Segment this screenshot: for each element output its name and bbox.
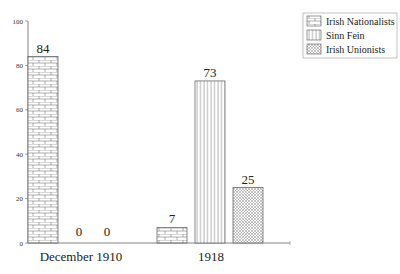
legend: Irish Nationalists Sinn Fein Irish Union… xyxy=(303,13,397,58)
y-tick-label: 100 xyxy=(13,18,24,26)
bar-sinn-fein-1 xyxy=(195,81,225,243)
bar-irish-nationalists-1 xyxy=(157,227,187,243)
category-label-1918: 1918 xyxy=(198,249,224,264)
legend-swatch-irish-unionists xyxy=(307,44,321,54)
legend-swatch-irish-nationalists xyxy=(307,16,321,26)
legend-label-sinn-fein: Sinn Fein xyxy=(326,30,365,41)
value-label: 84 xyxy=(37,41,51,56)
value-label: 0 xyxy=(104,224,111,239)
legend-label-irish-nationalists: Irish Nationalists xyxy=(326,16,395,27)
bar-chart: 020406080100 840077325 December 1910 191… xyxy=(0,0,400,274)
y-tick-label: 40 xyxy=(16,151,24,159)
legend-label-irish-unionists: Irish Unionists xyxy=(326,44,385,55)
bar-irish-nationalists-0 xyxy=(28,57,58,243)
value-label: 25 xyxy=(242,172,255,187)
y-axis: 020406080100 xyxy=(13,18,29,248)
y-tick-label: 20 xyxy=(16,195,24,203)
y-tick-label: 0 xyxy=(20,240,24,248)
bars-group: 840077325 xyxy=(28,41,263,243)
category-label-1910: December 1910 xyxy=(40,249,123,264)
y-tick-label: 60 xyxy=(16,106,24,114)
legend-swatch-sinn-fein xyxy=(307,30,321,40)
value-label: 0 xyxy=(76,224,83,239)
value-label: 73 xyxy=(204,65,217,80)
value-label: 7 xyxy=(169,211,176,226)
y-tick-label: 80 xyxy=(16,62,24,70)
bar-irish-unionists-1 xyxy=(233,188,263,244)
